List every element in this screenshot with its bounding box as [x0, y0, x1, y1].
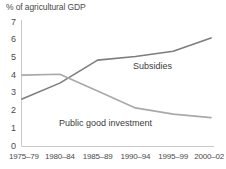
series-label-subsidies: Subsidies	[133, 62, 172, 71]
chart-plot-area	[0, 0, 226, 169]
series-line-subsidies	[22, 38, 211, 99]
series-label-public-good-investment: Public good investment	[59, 119, 152, 128]
chart-container: % of agricultural GDP 01234567 1975–7919…	[0, 0, 226, 169]
series-line-public-good-investment	[22, 74, 211, 117]
